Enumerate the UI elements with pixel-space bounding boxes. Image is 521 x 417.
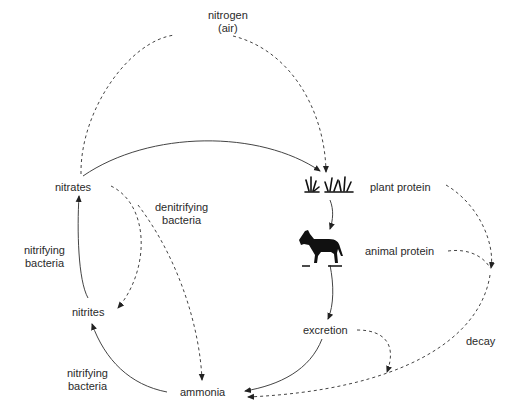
label-decay: decay <box>466 335 495 348</box>
edge-plant-protein-decay <box>446 185 492 268</box>
label-nitrifying-bacteria-lower: nitrifying bacteria <box>67 367 108 393</box>
label-denitrifying-bacteria: denitrifying bacteria <box>155 201 208 227</box>
node-nitrogen-air: nitrogen (air) <box>208 9 248 35</box>
bacteria-text: bacteria <box>24 257 65 270</box>
edge-plants-to-animal <box>330 200 333 229</box>
denitrifying-text: denitrifying <box>155 201 208 214</box>
bacteria-text: bacteria <box>67 380 108 393</box>
nitrifying-text: nitrifying <box>67 367 108 380</box>
node-excretion: excretion <box>303 324 348 337</box>
edge-nitrites-to-nitrates <box>78 196 88 298</box>
edge-nitrates-to-plants <box>83 141 320 176</box>
horse-icon <box>296 228 346 268</box>
edge-nitrates-to-nitrites <box>111 186 141 308</box>
bacteria-text: bacteria <box>155 214 208 227</box>
edge-nitrates-to-ammonia <box>138 205 202 380</box>
cycle-edges <box>0 0 521 417</box>
label-nitrifying-bacteria-upper: nitrifying bacteria <box>24 244 65 270</box>
edge-animal-to-excretion <box>328 265 333 319</box>
node-nitrites: nitrites <box>72 306 104 319</box>
node-plant-protein: plant protein <box>370 181 431 194</box>
nitrifying-text: nitrifying <box>24 244 65 257</box>
grass-plants-icon <box>303 174 355 194</box>
edge-animal-protein-decay <box>448 250 490 268</box>
node-ammonia: ammonia <box>180 386 225 399</box>
nitrogen-label: nitrogen <box>208 9 248 22</box>
node-animal-protein: animal protein <box>365 245 434 258</box>
edge-excretion-to-ammonia <box>245 339 322 391</box>
node-nitrates: nitrates <box>55 181 91 194</box>
air-label: (air) <box>208 22 248 35</box>
edge-excretion-dashed <box>357 330 390 372</box>
edge-nitrates-to-nitrogen <box>81 35 175 174</box>
